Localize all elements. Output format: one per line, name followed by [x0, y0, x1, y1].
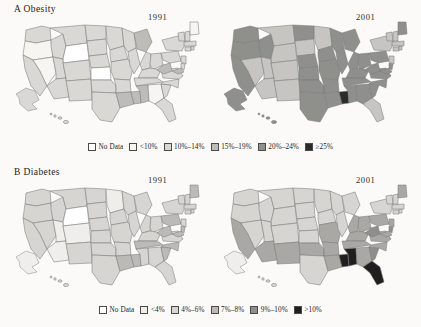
state-CT: [393, 47, 399, 51]
legend-item-obesity-3: 15%–19%: [211, 143, 252, 151]
panel-a-title: A Obesity: [14, 4, 56, 14]
legend-item-obesity-5: ≥25%: [305, 143, 333, 151]
state-VT: [386, 32, 393, 41]
state-IN: [140, 215, 151, 233]
state-WA: [25, 26, 51, 43]
state-MI: [342, 29, 360, 52]
state-ND: [85, 25, 106, 41]
state-NE: [89, 217, 110, 231]
state-FL: [155, 261, 176, 285]
legend-swatch-icon: [129, 143, 137, 151]
legend-swatch-icon: [305, 143, 313, 151]
state-RI: [191, 46, 194, 50]
legend-item-obesity-1: <10%: [129, 143, 157, 151]
state-MA: [184, 41, 196, 46]
state-NH: [393, 194, 398, 204]
state-MI: [134, 192, 152, 215]
state-TX: [92, 255, 120, 285]
legend-obesity: No Data <10% 10%–14% 15%–19% 20%–24% ≥25…: [0, 143, 421, 151]
state-MI: [134, 29, 152, 52]
state-NM: [66, 79, 92, 101]
state-NM: [274, 242, 300, 264]
state-NJ: [389, 56, 394, 64]
state-WY: [63, 43, 89, 63]
state-NM: [274, 79, 300, 101]
state-ME: [398, 22, 407, 35]
state-OK: [299, 243, 324, 256]
map-obesity-1991: [6, 16, 206, 140]
state-WA: [233, 26, 259, 43]
legend-swatch-icon: [294, 306, 302, 314]
state-PA: [161, 214, 181, 226]
state-AR: [114, 79, 131, 93]
state-FL: [363, 98, 384, 122]
state-MN: [106, 189, 124, 213]
state-IN: [348, 215, 359, 233]
map-diabetes-2001: [214, 179, 414, 303]
state-WA: [233, 189, 259, 206]
state-KS: [299, 230, 319, 243]
state-HI: [50, 113, 69, 124]
state-ND: [293, 188, 314, 204]
state-MN: [314, 26, 332, 50]
panel-obesity: A Obesity 1991 2001: [0, 0, 421, 164]
state-NH: [185, 31, 190, 41]
state-NE: [297, 54, 318, 68]
us-choropleth-svg: [214, 179, 414, 303]
state-IN: [140, 52, 151, 70]
us-choropleth-svg: [6, 16, 206, 140]
state-CT: [185, 210, 191, 214]
legend-item-obesity-0: No Data: [88, 143, 123, 151]
state-SD: [295, 39, 315, 56]
state-VT: [178, 32, 185, 41]
state-ME: [190, 185, 199, 198]
state-AR: [114, 242, 131, 256]
state-RI: [191, 209, 194, 213]
us-choropleth-svg: [6, 179, 206, 303]
state-NJ: [181, 56, 186, 64]
state-FL: [155, 98, 176, 122]
legend-label: 20%–24%: [268, 143, 299, 151]
legend-label: 15%–19%: [221, 143, 252, 151]
state-KS: [299, 67, 319, 80]
state-NH: [393, 31, 398, 41]
state-RI: [399, 209, 402, 213]
us-choropleth-svg: [214, 16, 414, 140]
legend-swatch-icon: [99, 306, 107, 314]
legend-label: <4%: [151, 306, 165, 314]
legend-label: ≥25%: [315, 143, 333, 151]
state-OK: [91, 243, 116, 256]
state-MA: [392, 204, 404, 209]
map-diabetes-1991: [6, 179, 206, 303]
state-NE: [297, 217, 318, 231]
state-MN: [314, 189, 332, 213]
state-MN: [106, 26, 124, 50]
legend-item-diabetes-3: 7%–8%: [211, 306, 245, 314]
panel-diabetes: B Diabetes 1991 2001: [0, 163, 421, 327]
legend-item-diabetes-5: >10%: [294, 306, 322, 314]
legend-swatch-icon: [140, 306, 148, 314]
map-obesity-2001: [214, 16, 414, 140]
state-WY: [271, 206, 297, 226]
state-AR: [322, 242, 339, 256]
state-KS: [91, 67, 111, 80]
state-SD: [87, 202, 107, 219]
legend-swatch-icon: [164, 143, 172, 151]
state-ND: [85, 188, 106, 204]
state-HI: [258, 113, 277, 124]
state-CT: [185, 47, 191, 51]
state-IN: [348, 52, 359, 70]
state-NH: [185, 194, 190, 204]
state-TX: [300, 255, 328, 285]
state-ME: [190, 22, 199, 35]
state-HI: [258, 276, 277, 287]
state-AR: [322, 79, 339, 93]
state-PA: [161, 51, 181, 63]
legend-item-obesity-2: 10%–14%: [164, 143, 205, 151]
state-VT: [178, 195, 185, 204]
panel-b-title: B Diabetes: [14, 167, 60, 177]
state-WY: [271, 43, 297, 63]
state-OK: [91, 80, 116, 93]
legend-label: 9%–10%: [261, 306, 288, 314]
legend-label: No Data: [99, 143, 124, 151]
